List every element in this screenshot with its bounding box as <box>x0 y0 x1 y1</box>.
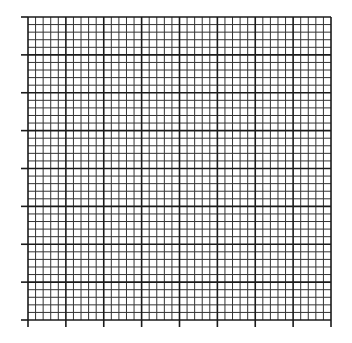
x-axis-ticks <box>28 320 331 327</box>
y-axis-ticks <box>21 17 28 320</box>
graph-paper-grid <box>0 0 352 343</box>
